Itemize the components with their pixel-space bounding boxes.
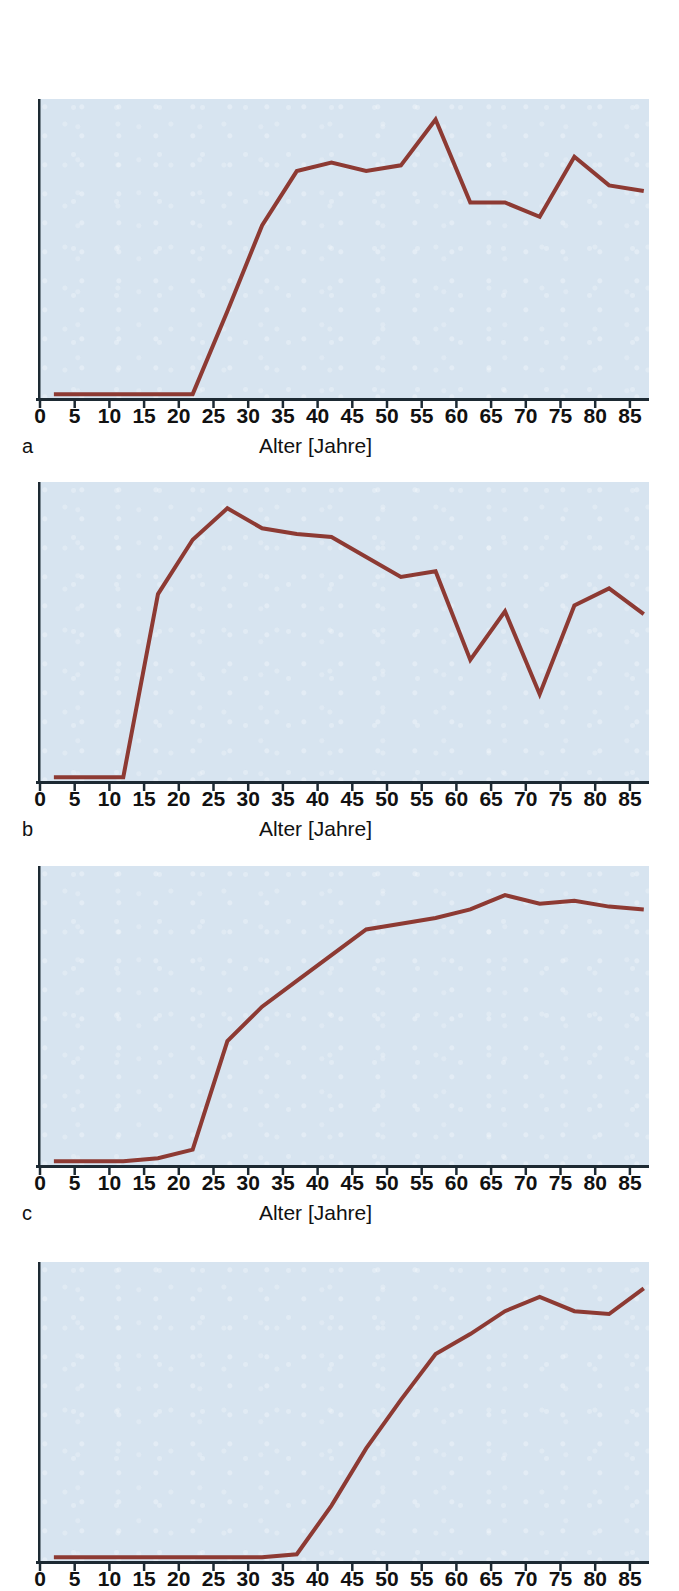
x-tick-label: 35 [271, 404, 294, 428]
panel-letter-a: a [22, 434, 33, 458]
x-tick-label: 30 [237, 404, 260, 428]
x-tick-label: 65 [479, 404, 502, 428]
x-tick-label: 80 [584, 787, 607, 811]
x-tick-label: 40 [306, 787, 329, 811]
x-tick-labels-b: 0510152025303540455055606570758085 [0, 787, 679, 817]
x-tick-label: 20 [167, 1567, 190, 1591]
x-axis-title-b: Alter [Jahre] [0, 817, 679, 841]
x-tick-label: 0 [34, 1171, 46, 1195]
series-line-b [38, 482, 649, 782]
series-line-c [38, 866, 649, 1166]
series-line-d [38, 1262, 649, 1562]
x-tick-label: 5 [69, 1171, 81, 1195]
x-tick-label: 5 [69, 787, 81, 811]
x-tick-label: 65 [479, 787, 502, 811]
x-tick-label: 55 [410, 1567, 433, 1591]
x-tick-label: 0 [34, 404, 46, 428]
x-tick-label: 70 [514, 787, 537, 811]
x-tick-label: 75 [549, 1171, 572, 1195]
series-line-a [38, 99, 649, 399]
x-tick-label: 45 [341, 1567, 364, 1591]
x-tick-label: 25 [202, 1171, 225, 1195]
plot-area-a [38, 99, 649, 399]
x-tick-label: 20 [167, 404, 190, 428]
x-tick-label: 45 [341, 787, 364, 811]
x-tick-labels-a: 0510152025303540455055606570758085 [0, 404, 679, 434]
x-tick-label: 15 [132, 404, 155, 428]
x-tick-label: 10 [98, 787, 121, 811]
x-tick-label: 45 [341, 1171, 364, 1195]
x-tick-label: 40 [306, 1171, 329, 1195]
x-tick-label: 10 [98, 1171, 121, 1195]
x-tick-label: 80 [584, 1171, 607, 1195]
x-tick-label: 85 [618, 404, 641, 428]
x-tick-label: 75 [549, 1567, 572, 1591]
x-tick-label: 15 [132, 1171, 155, 1195]
x-tick-label: 25 [202, 404, 225, 428]
x-tick-labels-c: 0510152025303540455055606570758085 [0, 1171, 679, 1201]
plot-area-b [38, 482, 649, 782]
x-tick-label: 10 [98, 404, 121, 428]
x-tick-label: 50 [375, 1171, 398, 1195]
x-tick-label: 70 [514, 404, 537, 428]
x-tick-label: 30 [237, 1171, 260, 1195]
x-tick-label: 20 [167, 787, 190, 811]
x-axis-title-text: Alter [Jahre] [259, 434, 372, 457]
x-tick-label: 35 [271, 1171, 294, 1195]
x-tick-label: 55 [410, 1171, 433, 1195]
x-tick-label: 25 [202, 787, 225, 811]
x-tick-label: 85 [618, 1171, 641, 1195]
x-tick-label: 80 [584, 1567, 607, 1591]
x-tick-label: 75 [549, 787, 572, 811]
x-axis-title-c: Alter [Jahre] [0, 1201, 679, 1225]
x-tick-label: 0 [34, 1567, 46, 1591]
x-tick-label: 35 [271, 1567, 294, 1591]
x-tick-label: 65 [479, 1171, 502, 1195]
x-tick-label: 65 [479, 1567, 502, 1591]
panel-letter-c: c [22, 1201, 32, 1225]
x-tick-label: 35 [271, 787, 294, 811]
x-tick-label: 40 [306, 1567, 329, 1591]
x-tick-label: 50 [375, 404, 398, 428]
x-tick-label: 70 [514, 1171, 537, 1195]
x-axis-title-text: Alter [Jahre] [259, 817, 372, 840]
x-tick-label: 5 [69, 1567, 81, 1591]
x-axis-title-text: Alter [Jahre] [259, 1201, 372, 1224]
x-tick-label: 0 [34, 787, 46, 811]
plot-area-d [38, 1262, 649, 1562]
x-tick-label: 55 [410, 787, 433, 811]
x-tick-label: 75 [549, 404, 572, 428]
x-tick-label: 85 [618, 787, 641, 811]
x-tick-label: 15 [132, 1567, 155, 1591]
x-tick-label: 20 [167, 1171, 190, 1195]
x-tick-label: 30 [237, 787, 260, 811]
x-tick-label: 45 [341, 404, 364, 428]
x-tick-label: 50 [375, 1567, 398, 1591]
x-tick-label: 5 [69, 404, 81, 428]
x-tick-label: 25 [202, 1567, 225, 1591]
x-tick-label: 55 [410, 404, 433, 428]
x-tick-label: 85 [618, 1567, 641, 1591]
x-axis-title-a: Alter [Jahre] [0, 434, 679, 458]
x-tick-label: 15 [132, 787, 155, 811]
plot-area-c [38, 866, 649, 1166]
x-tick-label: 10 [98, 1567, 121, 1591]
x-tick-label: 50 [375, 787, 398, 811]
x-tick-labels-d: 0510152025303540455055606570758085 [0, 1567, 679, 1591]
x-tick-label: 70 [514, 1567, 537, 1591]
x-tick-label: 60 [445, 787, 468, 811]
x-tick-label: 80 [584, 404, 607, 428]
x-tick-label: 60 [445, 1171, 468, 1195]
x-tick-label: 60 [445, 1567, 468, 1591]
panel-letter-b: b [22, 817, 33, 841]
x-tick-label: 30 [237, 1567, 260, 1591]
x-tick-label: 60 [445, 404, 468, 428]
x-tick-label: 40 [306, 404, 329, 428]
